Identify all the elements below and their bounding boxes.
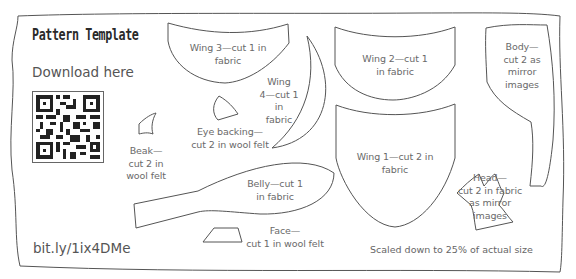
body-label-line1: Body—: [495, 41, 549, 54]
wing3-label-line1: Wing 3—cut 1 in: [183, 42, 273, 55]
short-url-link[interactable]: bit.ly/1ix4DMe: [33, 240, 130, 256]
wing4-label-line2: 4—cut 1 in: [254, 89, 304, 114]
head-label: Head— cut 2 in fabric as mirror images: [455, 172, 525, 222]
body-label-line2: cut 2 as: [495, 54, 549, 67]
wing2-label-line1: Wing 2—cut 1: [355, 53, 435, 66]
body-label-line3: mirror: [495, 66, 549, 79]
beak-label-line2: cut 2 in: [124, 158, 168, 171]
wing3-label: Wing 3—cut 1 in fabric: [183, 42, 273, 67]
belly-label-line1: Belly—cut 1: [240, 178, 310, 191]
face-label: Face— cut 1 in wool felt: [240, 225, 330, 250]
eye-backing-label-line1: Eye backing—: [180, 126, 280, 139]
face-piece: [203, 228, 242, 242]
eye-backing-piece: [214, 96, 238, 120]
wing4-label-line1: Wing: [254, 76, 304, 89]
eye-backing-label: Eye backing— cut 2 in wool felt: [180, 126, 280, 151]
beak-label-line3: wool felt: [124, 170, 168, 183]
download-text: Download here: [32, 64, 134, 80]
beak-piece: [139, 113, 156, 134]
eye-backing-label-line2: cut 2 in wool felt: [180, 139, 280, 152]
beak-label: Beak— cut 2 in wool felt: [124, 145, 168, 183]
wing2-label: Wing 2—cut 1 in fabric: [355, 53, 435, 78]
qr-code-icon: [33, 92, 103, 162]
beak-label-line1: Beak—: [124, 145, 168, 158]
wing1-label-line2: fabric: [350, 164, 440, 177]
head-label-line4: images: [455, 210, 525, 223]
head-label-line1: Head—: [455, 172, 525, 185]
wing3-label-line2: fabric: [183, 55, 273, 68]
qr-code[interactable]: [32, 91, 104, 163]
face-label-line2: cut 1 in wool felt: [240, 238, 330, 251]
belly-label: Belly—cut 1 in fabric: [240, 178, 310, 203]
head-label-line3: as mirror: [455, 197, 525, 210]
wing1-label: Wing 1—cut 2 in fabric: [350, 151, 440, 176]
wing4-label-line3: fabric: [254, 114, 304, 127]
wing4-label: Wing 4—cut 1 in fabric: [254, 76, 304, 126]
wing2-label-line2: in fabric: [355, 66, 435, 79]
belly-label-line2: in fabric: [240, 191, 310, 204]
body-label-line4: images: [495, 79, 549, 92]
scale-note: Scaled down to 25% of actual size: [370, 244, 533, 255]
face-label-line1: Face—: [240, 225, 330, 238]
body-label: Body— cut 2 as mirror images: [495, 41, 549, 91]
head-label-line2: cut 2 in fabric: [455, 185, 525, 198]
wing1-label-line1: Wing 1—cut 2 in: [350, 151, 440, 164]
page-title: Pattern Template: [32, 26, 138, 44]
